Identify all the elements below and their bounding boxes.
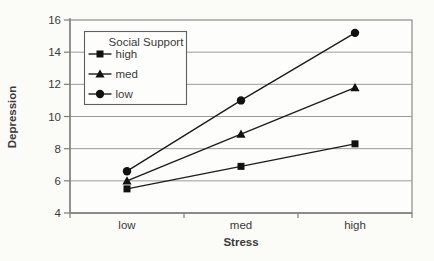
legend-item-label-med: med [116, 68, 138, 80]
legend-item-label-high: high [116, 48, 138, 60]
y-tick-label: 4 [55, 207, 62, 219]
series-high-square-marker [238, 163, 245, 170]
x-category-label: med [230, 219, 252, 231]
series-low-circle-marker [123, 167, 131, 175]
x-category-label: low [118, 219, 136, 231]
legend-title: Social Support [109, 36, 185, 48]
y-tick-label: 16 [48, 14, 61, 26]
y-tick-label: 10 [48, 111, 61, 123]
y-tick-label: 6 [55, 175, 61, 187]
series-high-square-marker [124, 185, 131, 192]
legend-low-circle-marker [96, 90, 104, 98]
series-low-circle-marker [237, 96, 245, 104]
chart-page: 46810121416lowmedhigh highmedlow Social … [0, 0, 434, 261]
legend-item-label-low: low [116, 88, 134, 100]
y-tick-label: 14 [48, 46, 61, 58]
series-low-circle-marker [351, 29, 359, 37]
y-axis-title: Depression [6, 86, 18, 149]
legend-high-square-marker [97, 51, 104, 58]
y-tick-label: 12 [48, 78, 61, 90]
series-high-square-marker [352, 140, 359, 147]
x-category-label: high [344, 219, 366, 231]
depression-stress-line-chart: 46810121416lowmedhigh highmedlow Social … [0, 0, 434, 261]
x-axis-title: Stress [223, 236, 258, 248]
y-tick-label: 8 [55, 143, 61, 155]
